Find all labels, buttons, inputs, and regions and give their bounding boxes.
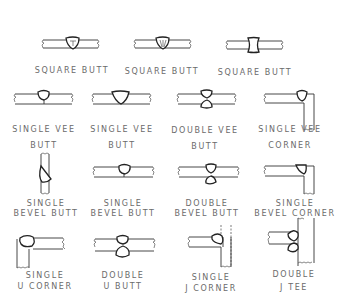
double-j-tee-weld-drawing [266,218,326,266]
single-vee-butt-weld-drawing [12,90,74,106]
joint-label: SQUARE BUTT [112,66,212,78]
joint-double-vee-butt [175,89,237,109]
single-bevel-butt-weld-drawing [34,151,58,195]
joint-single-j-corner [186,225,238,269]
joint-label: SQUARE BUTT [205,67,305,79]
joint-double-bevel-butt [176,163,240,185]
square-butt-weld-drawing [40,36,100,52]
single-bevel-butt-weld-drawing [91,163,155,181]
joint-label-line2: BEVEL BUTT [157,208,257,220]
joint-single-bevel-butt-2 [91,163,155,181]
double-u-butt-weld-drawing [92,235,156,259]
joint-label-line2: U BUTT [73,281,173,293]
joint-square-butt-2 [132,36,192,52]
single-u-corner-weld-drawing [16,235,68,269]
double-bevel-butt-weld-drawing [176,163,240,185]
joint-single-bevel-corner [262,163,322,195]
double-vee-butt-weld-drawing [175,89,237,109]
joint-single-u-corner [16,235,68,269]
joint-label: SINGLE VEE [240,124,338,136]
joint-square-butt-1 [40,36,100,52]
joint-single-vee-butt-2 [90,90,152,106]
single-vee-butt-weld-drawing [90,90,152,106]
joint-single-vee-butt-1 [12,90,74,106]
single-bevel-corner-weld-drawing [262,163,322,195]
joint-double-u-butt [92,235,156,259]
joint-label: SQUARE BUTT [22,65,122,77]
joint-double-j-tee [266,218,326,266]
square-butt-weld-drawing [132,36,192,52]
joint-single-bevel-butt-1 [34,151,58,195]
joint-label-line2: J TEE [244,282,338,294]
joint-label: DOUBLE [244,269,338,281]
joint-square-butt-3 [224,37,284,53]
joint-label-line2: CORNER [240,140,338,152]
single-j-corner-weld-drawing [186,225,238,269]
square-butt-weld-drawing [224,37,284,53]
